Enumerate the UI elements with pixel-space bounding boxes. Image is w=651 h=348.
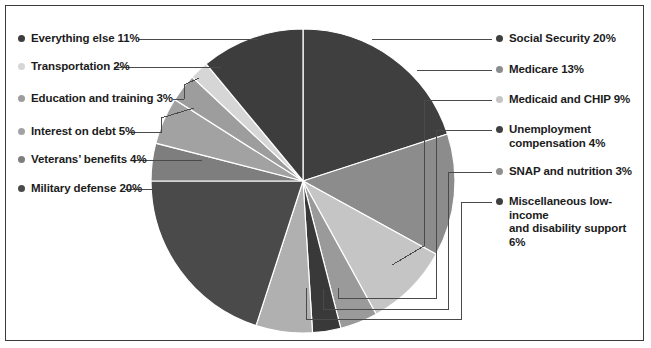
legend-item-military-defense[interactable]: Military defense 20% — [18, 182, 142, 196]
legend-label-interest-on-debt: Interest on debt 5% — [31, 125, 135, 139]
legend-bullet-everything-else — [18, 35, 25, 42]
pie-chart-figure: Everything else 11% Transportation 2% Ed… — [0, 0, 651, 348]
legend-label-medicare: Medicare 13% — [509, 63, 584, 77]
legend-item-education-and-training[interactable]: Education and training 3% — [18, 92, 173, 106]
legend-item-medicare[interactable]: Medicare 13% — [496, 63, 584, 77]
legend-bullet-veterans-benefits — [18, 156, 25, 163]
legend-bullet-miscellaneous-low-income — [496, 198, 503, 205]
legend-label-everything-else: Everything else 11% — [31, 32, 140, 46]
legend-item-interest-on-debt[interactable]: Interest on debt 5% — [18, 125, 135, 139]
pie-svg — [148, 26, 458, 336]
legend-bullet-education-and-training — [18, 95, 25, 102]
legend-bullet-medicare — [496, 66, 503, 73]
legend-label-miscellaneous-low-income: Miscellaneous low-income and disability … — [509, 195, 643, 249]
legend-bullet-transportation — [18, 63, 25, 70]
legend-bullet-military-defense — [18, 185, 25, 192]
legend-bullet-social-security — [496, 35, 503, 42]
legend-bullet-snap-and-nutrition — [496, 168, 503, 175]
legend-bullet-interest-on-debt — [18, 128, 25, 135]
legend-label-education-and-training: Education and training 3% — [31, 92, 173, 106]
legend-item-social-security[interactable]: Social Security 20% — [496, 32, 616, 46]
legend-item-snap-and-nutrition[interactable]: SNAP and nutrition 3% — [496, 165, 632, 179]
pie-chart — [148, 26, 458, 336]
legend-label-transportation: Transportation 2% — [31, 60, 130, 74]
legend-bullet-medicaid-and-chip — [496, 96, 503, 103]
legend-item-veterans-benefits[interactable]: Veterans’ benefits 4% — [18, 153, 147, 167]
legend-bullet-unemployment-compensation — [496, 126, 503, 133]
legend-item-transportation[interactable]: Transportation 2% — [18, 60, 130, 74]
legend-item-miscellaneous-low-income[interactable]: Miscellaneous low-income and disability … — [496, 195, 643, 249]
pie-slices — [151, 29, 455, 333]
legend-item-everything-else[interactable]: Everything else 11% — [18, 32, 140, 46]
figure-frame: Everything else 11% Transportation 2% Ed… — [5, 5, 644, 341]
legend-item-medicaid-and-chip[interactable]: Medicaid and CHIP 9% — [496, 93, 630, 107]
legend-label-unemployment-compensation: Unemployment compensation 4% — [509, 123, 605, 150]
legend-label-social-security: Social Security 20% — [509, 32, 616, 46]
legend-label-military-defense: Military defense 20% — [31, 182, 142, 196]
legend-label-medicaid-and-chip: Medicaid and CHIP 9% — [509, 93, 630, 107]
legend-item-unemployment-compensation[interactable]: Unemployment compensation 4% — [496, 123, 605, 150]
legend-label-snap-and-nutrition: SNAP and nutrition 3% — [509, 165, 632, 179]
legend-label-veterans-benefits: Veterans’ benefits 4% — [31, 153, 147, 167]
